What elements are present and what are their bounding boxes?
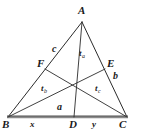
vertex-label-c: C — [119, 119, 126, 130]
side-label-c: c — [52, 44, 56, 54]
median-label-tc-sub: c — [98, 88, 101, 94]
median-a-line — [74, 22, 82, 117]
vertex-label-a: A — [78, 5, 85, 16]
median-label-tb: tb — [41, 84, 47, 93]
median-label-ta-sub: a — [82, 53, 85, 59]
segment-label-x: x — [30, 120, 35, 129]
point-label-d: D — [69, 119, 77, 130]
median-label-ta: ta — [79, 49, 85, 58]
point-label-e: E — [107, 58, 114, 69]
segment-label-y: y — [92, 120, 96, 129]
median-label-tc: tc — [95, 84, 100, 93]
geometry-figure: A B C D E F a b c x y ta tb tc — [0, 0, 142, 138]
side-label-b: b — [113, 71, 118, 81]
point-label-f: F — [37, 58, 44, 69]
side-label-a: a — [57, 102, 62, 112]
median-label-tb-sub: b — [44, 88, 47, 94]
vertex-label-b: B — [2, 119, 9, 130]
